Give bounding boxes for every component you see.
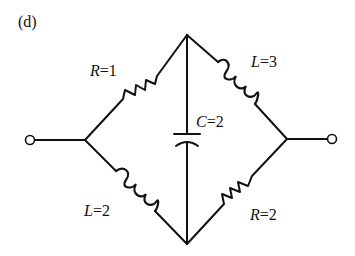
inductor-l2[interactable]	[85, 140, 187, 244]
capacitor-c2[interactable]	[174, 35, 200, 244]
label-r2-symbol: R	[250, 206, 260, 223]
input-terminal[interactable]	[26, 136, 86, 145]
circuit-diagram	[0, 0, 355, 256]
resistor-r2[interactable]	[187, 139, 287, 244]
label-l2-symbol: L	[84, 202, 93, 219]
label-r1-symbol: R	[90, 62, 100, 79]
output-terminal[interactable]	[287, 135, 337, 144]
label-c2: C=2	[196, 114, 224, 130]
label-c2-value: =2	[207, 113, 224, 130]
resistor-r1[interactable]	[85, 35, 187, 140]
panel-label: (d)	[18, 14, 37, 30]
label-r2: R=2	[250, 207, 277, 223]
label-r2-value: =2	[260, 206, 277, 223]
label-l2: L=2	[84, 203, 110, 219]
label-c2-symbol: C	[196, 113, 207, 130]
label-l3-value: =3	[260, 53, 277, 70]
label-r1: R=1	[90, 63, 117, 79]
label-r1-value: =1	[100, 62, 117, 79]
label-l3-symbol: L	[251, 53, 260, 70]
label-l3: L=3	[251, 54, 277, 70]
label-l2-value: =2	[93, 202, 110, 219]
